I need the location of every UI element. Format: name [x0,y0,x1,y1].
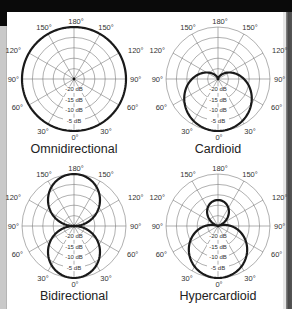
angle-label-120-right: 120° [128,46,144,55]
angle-label-0: 0° [215,280,222,289]
db-label: -20 dB [65,233,83,239]
angle-label-30-right: 30° [100,127,111,136]
polar-plot-bidirectional: 180°150°150°120°120°90°90°60°60°30°30°0°… [5,164,143,303]
angle-label-150-right: 150° [98,170,114,179]
db-label: -10 dB [65,107,83,113]
angle-label-30-left: 30° [37,274,48,283]
polar-plot-hypercardioid: 180°150°150°120°120°90°90°60°60°30°30°0°… [149,164,287,303]
angle-label-60-left: 60° [12,103,23,112]
angle-label-120-left: 120° [5,193,21,202]
angle-label-150-left: 150° [36,23,52,32]
angle-label-90-right: 90° [274,75,285,84]
angle-label-150-left: 150° [180,23,196,32]
diagram-title-hypercardioid: Hypercardioid [179,289,256,303]
db-label: -15 dB [65,244,83,250]
db-label: -10 dB [209,254,227,260]
angle-label-30-left: 30° [37,127,48,136]
db-label: -15 dB [209,97,227,103]
angle-label-150-left: 150° [36,170,52,179]
db-label: -5 dB [211,265,225,271]
angle-label-90-right: 90° [274,222,285,231]
angle-label-60-right: 60° [127,103,138,112]
angle-label-60-left: 60° [12,250,23,259]
angle-label-90-right: 90° [130,75,141,84]
angle-label-30-left: 30° [181,127,192,136]
diagram-title-cardioid: Cardioid [195,142,242,156]
angle-label-120-right: 120° [272,193,288,202]
angle-label-120-left: 120° [149,193,165,202]
angle-label-90-left: 90° [8,75,19,84]
angle-label-30-left: 30° [181,274,192,283]
angle-label-120-left: 120° [5,46,21,55]
db-label: -15 dB [209,244,227,250]
angle-label-0: 0° [215,133,222,142]
angle-label-30-right: 30° [244,274,255,283]
angle-label-30-right: 30° [100,274,111,283]
angle-label-150-left: 150° [180,170,196,179]
angle-label-150-right: 150° [242,170,258,179]
angle-label-120-right: 120° [128,193,144,202]
db-label: -5 dB [67,118,81,124]
diagram-title-omnidirectional: Omnidirectional [31,142,118,156]
diagram-title-bidirectional: Bidirectional [40,289,108,303]
polar-plot-omnidirectional: 180°150°150°120°120°90°90°60°60°30°30°0°… [5,17,143,156]
angle-label-150-right: 150° [242,23,258,32]
angle-label-150-right: 150° [98,23,114,32]
angle-label-90-left: 90° [152,75,163,84]
angle-label-0: 0° [71,133,78,142]
polar-plot-cardioid: 180°150°150°120°120°90°90°60°60°30°30°0°… [149,17,287,156]
db-label: -20 dB [209,86,227,92]
angle-label-90-right: 90° [130,222,141,231]
angle-label-30-right: 30° [244,127,255,136]
angle-label-0: 0° [71,280,78,289]
angle-label-60-left: 60° [156,250,167,259]
db-label: -10 dB [65,254,83,260]
angle-label-180: 180° [212,17,228,26]
angle-label-90-left: 90° [152,222,163,231]
angle-label-60-right: 60° [271,103,282,112]
angle-label-180: 180° [212,164,228,173]
center-dot [73,78,76,81]
angle-label-180: 180° [68,17,84,26]
db-label: -10 dB [209,107,227,113]
db-label: -20 dB [65,86,83,92]
angle-label-90-left: 90° [8,222,19,231]
angle-label-60-right: 60° [271,250,282,259]
angle-label-60-left: 60° [156,103,167,112]
db-label: -5 dB [211,118,225,124]
db-label: -5 dB [67,265,81,271]
angle-label-120-left: 120° [149,46,165,55]
db-label: -15 dB [65,97,83,103]
angle-label-60-right: 60° [127,250,138,259]
db-label: -20 dB [209,233,227,239]
polar-diagrams: 180°150°150°120°120°90°90°60°60°30°30°0°… [0,0,292,309]
angle-label-180: 180° [68,164,84,173]
angle-label-120-right: 120° [272,46,288,55]
